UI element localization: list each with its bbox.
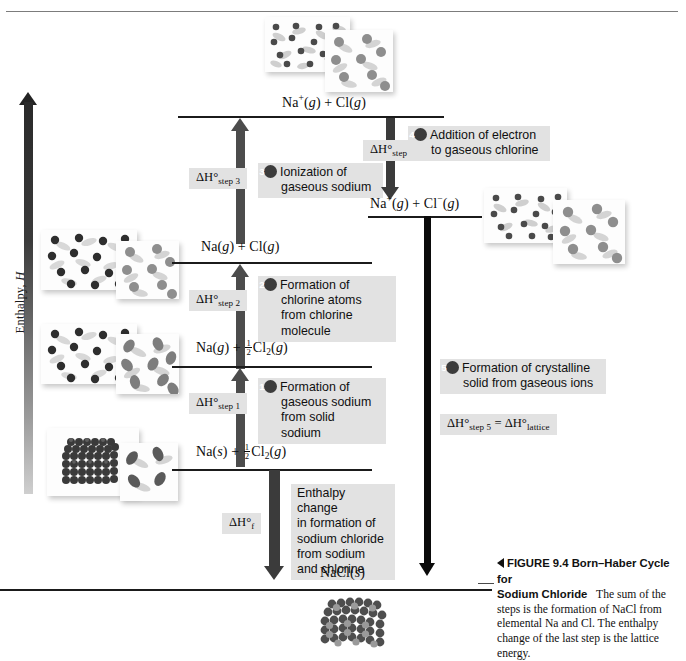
- figure-caption: FIGURE 9.4 Born–Haber Cycle forSodium Ch…: [497, 556, 683, 661]
- level-label-na-plus-cl-minus: Na+(g) + Cl−(g): [370, 194, 459, 212]
- step3-badge: 3: [264, 165, 277, 178]
- step5-arrow: [419, 216, 435, 577]
- level-label-na-s-half-cl2: Na(s) + 12Cl2(g): [196, 443, 286, 462]
- step5-dh-symbol: ΔH°: [447, 416, 469, 430]
- step2-badge: 2: [264, 278, 277, 291]
- level-label-na-g-half-cl2: Na(g) + 12Cl2(g): [196, 339, 288, 358]
- step5-badge: 5: [446, 361, 459, 374]
- panel-chloride-ions-gas: [553, 200, 625, 264]
- step3-dh-subscript: step 3: [218, 176, 240, 186]
- page-top-rule: [6, 11, 678, 12]
- level-line-na-g-cl-g: [172, 262, 372, 264]
- step2-text-line1: Formation of: [280, 278, 350, 292]
- formation-text-line2: in formation of: [297, 516, 376, 530]
- step5-dh-symbol2: ΔH°: [505, 416, 527, 430]
- formation-dh-subscript: f: [251, 521, 254, 531]
- step4-dh-symbol: ΔH°: [370, 142, 392, 156]
- step4-text-line3: chlorine: [495, 143, 538, 157]
- enthalpy-axis-label-symbol: H: [13, 272, 27, 281]
- formation-enthalpy-chip: ΔH°f: [222, 513, 261, 534]
- step2-dh-subscript: step 2: [218, 298, 240, 308]
- level-label-nacl-s: NaCl(s): [320, 565, 365, 581]
- step4-note: 4Addition of electron to gaseous chlorin…: [408, 126, 550, 161]
- step5-dh-subscript: step 5: [469, 422, 491, 432]
- step5-text-line2: solid from gaseous ions: [463, 376, 593, 390]
- panel-chlorine-atoms-gas-2: [116, 241, 179, 299]
- step5-text-line1: Formation of crystalline: [462, 361, 590, 375]
- caption-triangle-icon: [497, 558, 504, 568]
- step2-enthalpy-chip: ΔH°step 2: [189, 290, 247, 311]
- step3-note: 3Ionization of gaseous sodium: [258, 163, 383, 198]
- level-line-na-g-half-cl2: [172, 366, 372, 368]
- formation-text-line1: Enthalpy change: [297, 486, 345, 515]
- formation-dh-symbol: ΔH°: [229, 515, 251, 529]
- enthalpy-axis-label-prefix: Enthalpy,: [13, 281, 27, 334]
- step5-note: 5Formation of crystalline solid from gas…: [440, 359, 606, 394]
- step5-enthalpy-chip: ΔH°step 5 = ΔH°lattice: [440, 414, 557, 435]
- level-line-nacl-s: [0, 589, 492, 591]
- step5-dh-equals: =: [494, 416, 501, 430]
- caption-leader-rule: [478, 583, 494, 584]
- step5-dh-subscript2: lattice: [527, 422, 550, 432]
- step1-dh-subscript: step 1: [218, 401, 240, 411]
- step1-enthalpy-chip: ΔH°step 1: [189, 393, 247, 414]
- level-line-na-plus-cl: [178, 116, 444, 118]
- caption-title-line2: Sodium Chloride: [497, 588, 587, 600]
- step1-text-line2: gaseous sodium: [281, 395, 371, 409]
- panel-chlorine-molecules-gas: [116, 334, 179, 394]
- step3-dh-symbol: ΔH°: [196, 170, 218, 184]
- panel-chlorine-atoms-gas-top: [325, 30, 393, 92]
- level-label-na-plus-cl: Na+(g) + Cl(g): [282, 93, 366, 111]
- caption-figure-number: FIGURE 9.4: [507, 557, 569, 569]
- step1-text-line1: Formation of: [280, 380, 350, 394]
- step1-note: 1Formation of gaseous sodium from solid …: [258, 378, 386, 444]
- step4-badge: 4: [414, 128, 427, 141]
- step4-text-line1: Addition of: [430, 128, 489, 142]
- formation-text-line3: sodium chloride: [297, 532, 384, 546]
- enthalpy-axis-label: Enthalpy, H: [13, 258, 28, 348]
- step1-text-line3: from solid sodium: [281, 410, 335, 439]
- formation-text-line4: from sodium: [297, 547, 365, 561]
- level-label-na-g-cl-g: Na(g) + Cl(g): [201, 239, 279, 255]
- formation-enthalpy-arrow: [264, 470, 284, 580]
- step1-dh-symbol: ΔH°: [196, 395, 218, 409]
- step2-note: 2Formation of chlorine atoms from chlori…: [258, 276, 396, 342]
- step2-dh-symbol: ΔH°: [196, 292, 218, 306]
- panel-chlorine-molecules-gas-2: [120, 443, 178, 501]
- step3-text-line1: Ionization of: [280, 165, 347, 179]
- nacl-crystal-image: [304, 594, 408, 652]
- step1-badge: 1: [264, 380, 277, 393]
- step3-enthalpy-chip: ΔH°step 3: [189, 168, 247, 189]
- step3-text-line2: gaseous sodium: [281, 180, 371, 194]
